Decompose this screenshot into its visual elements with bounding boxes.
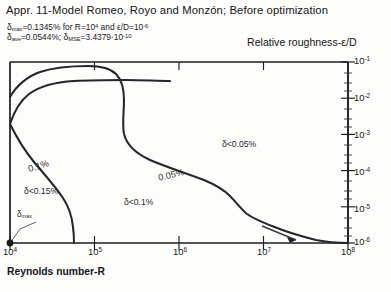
delta-max-marker: [7, 240, 14, 247]
x-axis-major-ticks: [10, 62, 348, 250]
contour-curve-0-05-percent: [10, 66, 348, 243]
chart-canvas: [0, 0, 391, 292]
contour-curve-0-1-percent-upper: [10, 80, 170, 124]
axis-frame: [10, 62, 348, 243]
chart-figure: Appr. 11-Model Romeo, Royo and Monzón; B…: [0, 0, 391, 292]
contour-curve-0-1-percent-lower: [10, 124, 74, 243]
